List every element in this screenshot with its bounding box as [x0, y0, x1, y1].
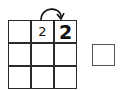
- grid-cell-r1c0: [8, 43, 31, 66]
- grid-cell-r0c2: 2: [54, 20, 77, 43]
- grid-cell-r1c2: [54, 43, 77, 66]
- number-grid: 2 2: [8, 20, 77, 89]
- grid-cell-r2c1: [31, 66, 54, 89]
- curved-arrow-icon: [37, 2, 67, 22]
- answer-box: [92, 44, 115, 66]
- grid-cell-r1c1: [31, 43, 54, 66]
- grid-cell-r0c0: [8, 20, 31, 43]
- grid-cell-r2c2: [54, 66, 77, 89]
- grid-cell-r2c0: [8, 66, 31, 89]
- grid-cell-r0c1: 2: [31, 20, 54, 43]
